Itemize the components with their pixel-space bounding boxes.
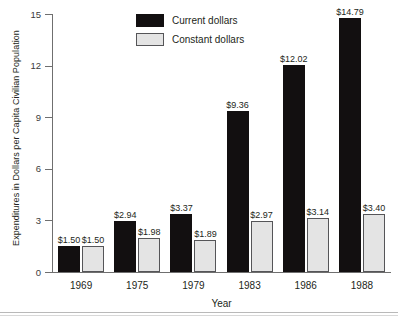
legend-swatch-current-icon xyxy=(136,14,164,27)
bar-1969-current: $1.50 xyxy=(58,246,80,272)
x-tick-label-1979: 1979 xyxy=(165,281,221,291)
bar-group-1969: $1.50$1.50 xyxy=(53,14,109,272)
y-tick-label: 3 xyxy=(36,216,41,226)
bar-value-label: $2.94 xyxy=(114,211,137,220)
bar-value-label: $1.98 xyxy=(138,228,161,237)
y-tick-0: 0 xyxy=(45,272,52,273)
bar-1988-current: $14.79 xyxy=(339,18,361,272)
bar-value-label: $14.79 xyxy=(336,8,364,17)
y-tick-label: 6 xyxy=(36,165,41,175)
bar-1979-constant: $1.89 xyxy=(194,240,216,273)
bar-group-1988: $14.79$3.40 xyxy=(334,14,390,272)
x-tick-label-1988: 1988 xyxy=(334,281,390,291)
x-tick-label-1975: 1975 xyxy=(109,281,165,291)
bar-1988-constant: $3.40 xyxy=(363,214,385,272)
x-axis-title: Year xyxy=(52,298,391,309)
bar-1986-constant: $3.14 xyxy=(307,218,329,272)
bar-value-label: $9.36 xyxy=(226,101,249,110)
y-tick-mark xyxy=(45,14,52,15)
y-tick-label: 15 xyxy=(30,10,41,20)
y-tick-6: 6 xyxy=(45,169,52,170)
bar-1983-current: $9.36 xyxy=(227,111,249,272)
y-tick-mark xyxy=(45,169,52,170)
bar-value-label: $3.14 xyxy=(306,208,329,217)
bar-value-label: $12.02 xyxy=(280,55,308,64)
bar-value-label: $1.89 xyxy=(194,230,217,239)
y-tick-mark xyxy=(45,66,52,67)
bar-1986-current: $12.02 xyxy=(283,65,305,272)
bar-1975-current: $2.94 xyxy=(114,221,136,272)
y-tick-mark xyxy=(45,117,52,118)
bar-value-label: $1.50 xyxy=(58,236,81,245)
bar-value-label: $3.40 xyxy=(363,204,386,213)
y-tick-mark xyxy=(45,272,52,273)
legend-swatch-constant-icon xyxy=(136,33,164,46)
bar-value-label: $3.37 xyxy=(170,204,193,213)
x-axis-line xyxy=(52,272,391,273)
page-rule-bottom xyxy=(0,315,398,316)
bar-group-1979: $3.37$1.89 xyxy=(165,14,221,272)
page-rule-top xyxy=(0,312,398,313)
bar-group-1975: $2.94$1.98 xyxy=(109,14,165,272)
y-tick-15: 15 xyxy=(45,14,52,15)
bar-group-1986: $12.02$3.14 xyxy=(278,14,334,272)
x-tick-label-1983: 1983 xyxy=(222,281,278,291)
bar-chart: 03691215 Expenditures in Dollars per Cap… xyxy=(0,0,398,318)
y-tick-9: 9 xyxy=(45,117,52,118)
bar-value-label: $2.97 xyxy=(250,211,273,220)
bar-1969-constant: $1.50 xyxy=(82,246,104,272)
bar-1979-current: $3.37 xyxy=(170,214,192,272)
x-tick-label-1986: 1986 xyxy=(278,281,334,291)
legend-item-constant: Constant dollars xyxy=(136,31,244,48)
y-axis-title: Expenditures in Dollars per Capita Civil… xyxy=(11,14,21,262)
y-tick-label: 0 xyxy=(36,268,41,278)
bar-value-label: $1.50 xyxy=(82,236,105,245)
chart-legend: Current dollars Constant dollars xyxy=(136,12,244,50)
bar-group-1983: $9.36$2.97 xyxy=(222,14,278,272)
x-tick-label-1969: 1969 xyxy=(53,281,109,291)
plot-area: $1.50$1.50$2.94$1.98$3.37$1.89$9.36$2.97… xyxy=(53,14,390,272)
bar-1983-constant: $2.97 xyxy=(251,221,273,272)
y-tick-3: 3 xyxy=(45,220,52,221)
legend-label-current: Current dollars xyxy=(172,16,238,26)
y-tick-label: 12 xyxy=(30,61,41,71)
legend-item-current: Current dollars xyxy=(136,12,244,29)
legend-label-constant: Constant dollars xyxy=(172,35,244,45)
y-tick-mark xyxy=(45,220,52,221)
y-tick-12: 12 xyxy=(45,66,52,67)
bar-1975-constant: $1.98 xyxy=(138,238,160,272)
y-tick-label: 9 xyxy=(36,113,41,123)
